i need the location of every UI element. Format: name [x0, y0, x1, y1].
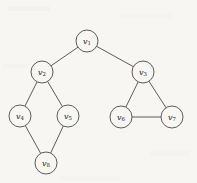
- graph-figure-canvas: v1v2v3v4v5v6v7v8: [0, 0, 197, 183]
- graph-node-v8[interactable]: v8: [35, 152, 57, 174]
- graph-node-v5[interactable]: v5: [57, 105, 79, 127]
- graph-node-v2[interactable]: v2: [31, 61, 53, 83]
- graph-edge-v5-v8: [51, 126, 64, 153]
- graph-edge-v4-v8: [25, 126, 40, 154]
- graph-node-v6[interactable]: v6: [110, 106, 132, 128]
- graph-edge-v1-v3: [97, 46, 134, 66]
- graph-edge-v3-v7: [149, 81, 166, 108]
- graph-edge-v2-v5: [48, 81, 63, 106]
- nodes-layer: v1v2v3v4v5v6v7v8: [9, 30, 183, 174]
- graph-node-v4[interactable]: v4: [9, 105, 31, 127]
- graph-edge-v3-v6: [126, 82, 138, 107]
- graph-node-v1[interactable]: v1: [76, 30, 98, 52]
- graph-edge-v2-v4: [25, 82, 37, 106]
- graph-node-v7[interactable]: v7: [161, 106, 183, 128]
- graph-diagram: v1v2v3v4v5v6v7v8: [0, 0, 197, 183]
- graph-node-v3[interactable]: v3: [132, 61, 154, 83]
- graph-edge-v1-v2: [51, 47, 78, 66]
